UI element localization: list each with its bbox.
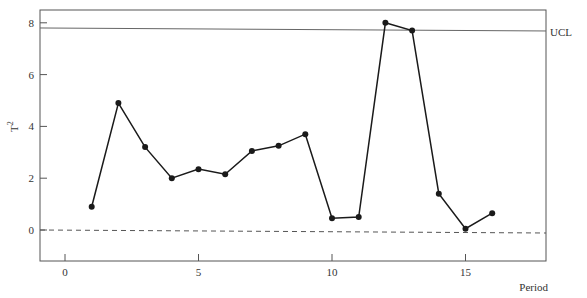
x-tick-label: 15 <box>460 266 472 278</box>
data-point <box>356 214 362 220</box>
x-tick-label: 5 <box>196 266 202 278</box>
y-tick-label: 8 <box>29 17 35 29</box>
data-point <box>436 191 442 197</box>
data-point <box>302 131 308 137</box>
data-point <box>89 204 95 210</box>
data-point <box>463 226 469 232</box>
y-axis-title: T2 <box>6 121 20 132</box>
data-point <box>329 215 335 221</box>
y-axis-title-superscript: 2 <box>6 121 15 125</box>
data-point <box>196 166 202 172</box>
data-point <box>276 143 282 149</box>
data-point <box>142 144 148 150</box>
ucl-label: UCL <box>550 26 572 38</box>
ucl-line <box>40 28 546 31</box>
x-axis: 051015 <box>62 254 471 278</box>
data-point <box>115 100 121 106</box>
data-point <box>382 20 388 26</box>
data-point <box>489 210 495 216</box>
y-tick-label: 4 <box>29 120 35 132</box>
t-squared-series-line <box>92 23 493 229</box>
y-tick-label: 2 <box>29 172 35 184</box>
control-chart: 02468 051015 UCL T2 Period <box>0 0 587 298</box>
y-tick-label: 6 <box>29 69 35 81</box>
y-tick-label: 0 <box>29 224 35 236</box>
data-point <box>249 148 255 154</box>
x-tick-label: 10 <box>327 266 339 278</box>
x-tick-label: 0 <box>62 266 68 278</box>
plot-frame <box>40 10 546 261</box>
x-axis-title: Period <box>519 281 548 293</box>
data-point <box>409 28 415 34</box>
data-point <box>222 171 228 177</box>
data-point <box>169 175 175 181</box>
y-axis: 02468 <box>29 17 48 236</box>
t-squared-series-points <box>89 20 496 232</box>
zero-reference-line <box>40 230 546 233</box>
